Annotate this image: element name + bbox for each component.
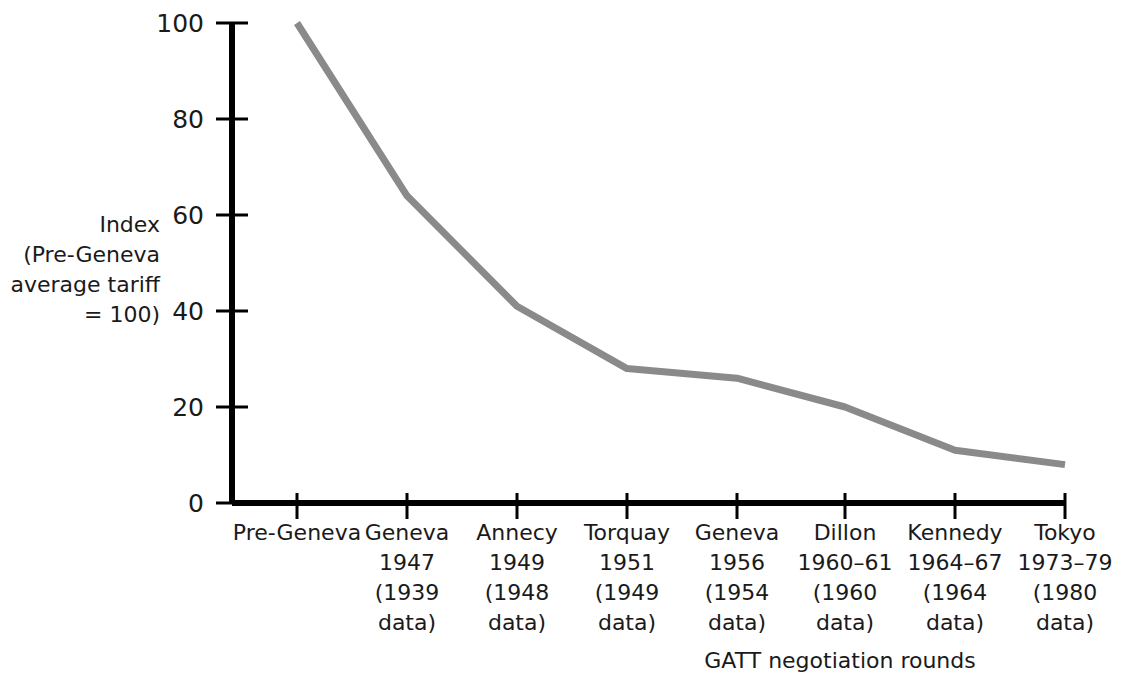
x-category-label-6: Kennedy1964–67(1964data) — [907, 520, 1002, 635]
x-category-label-6-line-2: (1964 — [923, 580, 988, 605]
x-category-label-2-line-1: 1949 — [489, 550, 545, 575]
x-category-label-7: Tokyo1973–79(1980data) — [1018, 520, 1113, 635]
x-category-label-5-line-2: (1960 — [813, 580, 878, 605]
x-category-label-3-line-0: Torquay — [583, 520, 670, 545]
x-category-label-2-line-3: data) — [488, 610, 546, 635]
y-axis-title-line-0: Index — [99, 212, 160, 237]
x-category-label-7-line-0: Tokyo — [1033, 520, 1096, 545]
y-tick-label-0: 0 — [188, 489, 204, 518]
x-category-label-3-line-1: 1951 — [599, 550, 655, 575]
x-category-label-1-line-2: (1939 — [375, 580, 440, 605]
x-category-label-5-line-3: data) — [816, 610, 874, 635]
y-tick-label-60: 60 — [172, 201, 204, 230]
x-category-label-2-line-2: (1948 — [485, 580, 550, 605]
x-category-label-7-line-2: (1980 — [1033, 580, 1098, 605]
y-tick-label-100: 100 — [156, 9, 204, 38]
x-category-label-1-line-3: data) — [378, 610, 436, 635]
x-category-label-5: Dillon1960–61(1960data) — [798, 520, 893, 635]
x-axis-category-labels: Pre-GenevaGeneva1947(1939data)Annecy1949… — [233, 520, 1113, 635]
x-axis-title: GATT negotiation rounds — [704, 648, 975, 673]
y-axis-title-line-1: (Pre-Geneva — [23, 242, 160, 267]
x-category-label-6-line-0: Kennedy — [907, 520, 1002, 545]
x-category-label-1-line-1: 1947 — [379, 550, 435, 575]
x-category-label-4: Geneva1956(1954data) — [695, 520, 780, 635]
y-axis-title-line-3: = 100) — [84, 302, 160, 327]
y-axis-title-line-2: average tariff — [11, 272, 161, 297]
x-category-label-0-line-0: Pre-Geneva — [233, 520, 361, 545]
x-category-label-7-line-1: 1973–79 — [1018, 550, 1113, 575]
x-category-label-4-line-3: data) — [708, 610, 766, 635]
x-category-label-1: Geneva1947(1939data) — [365, 520, 450, 635]
x-category-label-6-line-3: data) — [926, 610, 984, 635]
y-tick-label-40: 40 — [172, 297, 204, 326]
x-category-label-4-line-2: (1954 — [705, 580, 770, 605]
tariff-index-line-chart: 020406080100 Pre-GenevaGeneva1947(1939da… — [0, 0, 1123, 693]
chart-canvas: 020406080100 Pre-GenevaGeneva1947(1939da… — [0, 0, 1123, 693]
x-category-label-3: Torquay1951(1949data) — [583, 520, 670, 635]
x-category-label-3-line-3: data) — [598, 610, 656, 635]
x-category-label-7-line-3: data) — [1036, 610, 1094, 635]
y-axis-tick-labels: 020406080100 — [156, 9, 204, 518]
x-category-label-2: Annecy1949(1948data) — [476, 520, 558, 635]
x-category-label-2-line-0: Annecy — [476, 520, 558, 545]
x-category-label-6-line-1: 1964–67 — [908, 550, 1003, 575]
x-category-label-4-line-1: 1956 — [709, 550, 765, 575]
y-tick-label-20: 20 — [172, 393, 204, 422]
x-category-label-5-line-0: Dillon — [814, 520, 877, 545]
series-line-index — [297, 23, 1065, 465]
y-axis-title: Index(Pre-Genevaaverage tariff= 100) — [11, 212, 161, 327]
x-category-label-4-line-0: Geneva — [695, 520, 780, 545]
x-category-label-5-line-1: 1960–61 — [798, 550, 893, 575]
x-category-label-3-line-2: (1949 — [595, 580, 660, 605]
x-category-label-0: Pre-Geneva — [233, 520, 361, 545]
y-tick-label-80: 80 — [172, 105, 204, 134]
x-category-label-1-line-0: Geneva — [365, 520, 450, 545]
